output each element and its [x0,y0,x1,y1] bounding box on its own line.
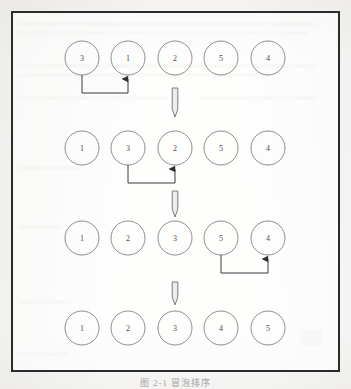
node-r2c5[interactable]: 4 [251,131,285,165]
node-r1c5[interactable]: 4 [251,41,285,75]
row-1-initial: 3 1 2 5 4 [65,41,285,93]
node-r3c5[interactable]: 4 [251,221,285,255]
node-label: 3 [173,234,177,243]
node-label: 2 [173,144,177,153]
node-label: 5 [219,234,223,243]
node-r3c2[interactable]: 2 [111,221,145,255]
node-label: 1 [80,144,84,153]
row-3-after-second-swap: 1 2 3 5 4 [65,221,285,273]
node-label: 5 [266,324,270,333]
node-r3c1[interactable]: 1 [65,221,99,255]
node-r2c2[interactable]: 3 [111,131,145,165]
node-label: 2 [173,54,177,63]
swap-connector-row-3 [221,255,268,273]
node-r4c3[interactable]: 3 [158,311,192,345]
node-r4c2[interactable]: 2 [111,311,145,345]
step-arrow-1-to-2 [172,88,178,117]
node-r4c5[interactable]: 5 [251,311,285,345]
node-label: 1 [80,234,84,243]
node-label: 4 [266,234,270,243]
node-r4c1[interactable]: 1 [65,311,99,345]
node-label: 1 [80,324,84,333]
node-label: 4 [266,144,270,153]
node-r4c4[interactable]: 4 [204,311,238,345]
node-r1c1[interactable]: 3 [65,41,99,75]
node-label: 2 [126,234,130,243]
node-label: 3 [80,54,84,63]
node-label: 3 [126,144,130,153]
swap-connector-row-1 [82,75,128,93]
node-r2c3[interactable]: 2 [158,131,192,165]
node-label: 3 [173,324,177,333]
node-r2c1[interactable]: 1 [65,131,99,165]
row-4-sorted: 1 2 3 4 5 [65,311,285,345]
node-label: 4 [266,54,270,63]
bubble-sort-diagram: 3 1 2 5 4 1 3 [0,0,351,389]
step-arrow-3-to-4 [172,282,178,305]
step-arrow-2-to-3 [172,191,178,217]
figure-caption: 图 2-1 冒泡排序 [0,377,351,389]
node-r1c2[interactable]: 1 [111,41,145,75]
row-2-after-first-swap: 1 3 2 5 4 [65,131,285,183]
node-label: 2 [126,324,130,333]
swap-connector-row-2 [128,165,175,183]
node-label: 5 [219,54,223,63]
node-r2c4[interactable]: 5 [204,131,238,165]
node-label: 4 [219,324,223,333]
node-label: 5 [219,144,223,153]
node-r1c4[interactable]: 5 [204,41,238,75]
node-r1c3[interactable]: 2 [158,41,192,75]
node-r3c4[interactable]: 5 [204,221,238,255]
node-r3c3[interactable]: 3 [158,221,192,255]
node-label: 1 [126,54,130,63]
